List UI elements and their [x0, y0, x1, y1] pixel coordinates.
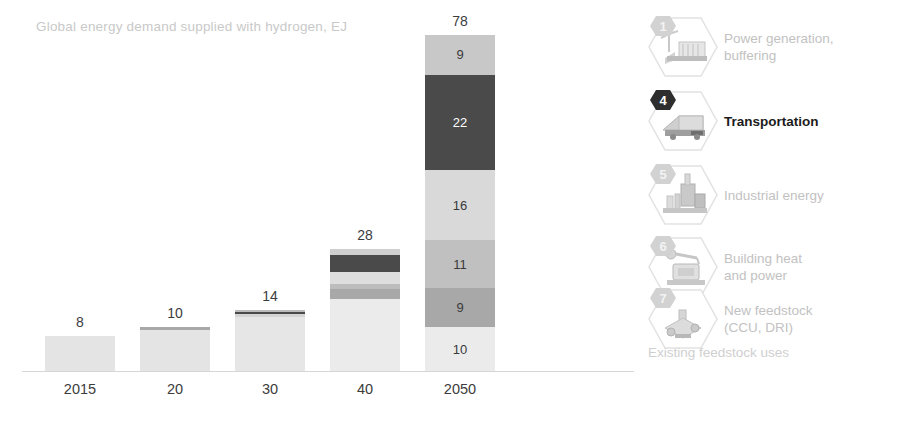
legend-item-3[interactable]: 5 Industrial energy [645, 160, 824, 230]
chart-legend: 1 Power generation,buffering 4 Transport… [645, 0, 911, 422]
legend-item-5[interactable]: 7 New feedstock(CCU, DRI) [645, 284, 813, 354]
bar-segment[interactable]: 16 [425, 170, 495, 240]
bar-30[interactable]: 1430 [235, 0, 305, 422]
bar-segment[interactable]: 10 [425, 327, 495, 371]
bar-segment[interactable] [45, 336, 115, 371]
legend-label: Industrial energy [724, 187, 824, 204]
x-axis-label-20: 20 [140, 381, 210, 397]
legend-label: Power generation,buffering [724, 30, 834, 64]
bar-2050[interactable]: 7892216119102050 [425, 0, 495, 422]
plot-area: 820151020143028407892216119102050 [0, 0, 640, 422]
x-axis-label-2050: 2050 [425, 381, 495, 397]
legend-item-1[interactable]: 1 Power generation,buffering [645, 12, 834, 82]
bar-total-label: 8 [45, 314, 115, 330]
bar-segment[interactable] [140, 330, 210, 371]
truck-icon: 4 [645, 86, 721, 156]
svg-text:5: 5 [659, 167, 666, 182]
bar-total-label: 10 [140, 305, 210, 321]
factory-icon: 5 [645, 160, 721, 230]
bar-segment[interactable] [235, 317, 305, 371]
chart-root: Global energy demand supplied with hydro… [0, 0, 911, 422]
x-axis-label-30: 30 [235, 381, 305, 397]
bar-40[interactable]: 2840 [330, 0, 400, 422]
svg-text:6: 6 [659, 239, 666, 254]
bar-segment[interactable] [330, 299, 400, 371]
bar-segment[interactable] [330, 255, 400, 272]
bar-segment[interactable] [330, 289, 400, 299]
bar-total-label: 14 [235, 288, 305, 304]
bar-2015[interactable]: 82015 [45, 0, 115, 422]
bar-total-label: 28 [330, 227, 400, 243]
legend-item-2[interactable]: 4 Transportation [645, 86, 819, 156]
power-plant-icon: 1 [645, 12, 721, 82]
x-axis-label-2015: 2015 [45, 381, 115, 397]
bar-segment[interactable]: 9 [425, 35, 495, 74]
bar-segment[interactable] [330, 272, 400, 283]
legend-label: Building heatand power [724, 250, 802, 284]
x-axis-label-40: 40 [330, 381, 400, 397]
svg-text:4: 4 [659, 93, 667, 108]
bar-segment[interactable]: 9 [425, 288, 495, 327]
bar-total-label: 78 [425, 13, 495, 29]
bar-segment[interactable]: 11 [425, 240, 495, 288]
bar-segment[interactable]: 22 [425, 75, 495, 171]
legend-label: New feedstock(CCU, DRI) [724, 302, 813, 336]
svg-text:1: 1 [659, 19, 666, 34]
legend-label: Transportation [724, 113, 819, 130]
feedstock-icon: 7 [645, 284, 721, 354]
legend-footnote: Existing feedstock uses [648, 345, 789, 360]
svg-text:7: 7 [659, 291, 666, 306]
bar-20[interactable]: 1020 [140, 0, 210, 422]
